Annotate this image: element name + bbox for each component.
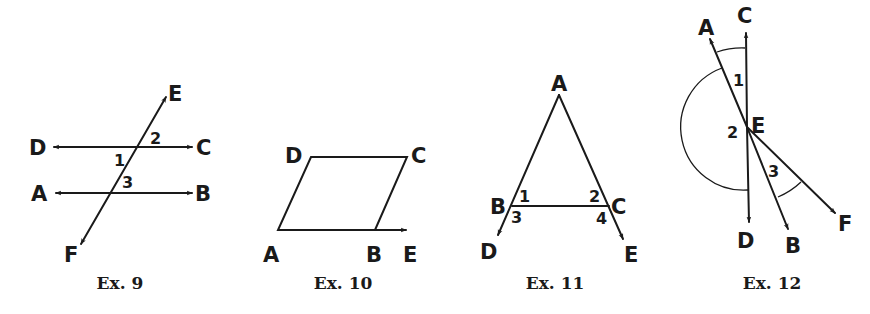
transversal-fe <box>81 97 166 244</box>
point-label-a: A <box>698 16 715 40</box>
figure-ex9: D C A B E F 1 2 3 Ex. 9 <box>29 82 211 293</box>
point-label-c: C <box>737 4 752 28</box>
angle-label-2: 2 <box>589 187 600 206</box>
point-label-b: B <box>490 195 506 219</box>
angle-arc-1 <box>717 48 745 52</box>
point-label-c: C <box>611 195 626 219</box>
angle-label-2: 2 <box>727 123 738 142</box>
point-label-d: D <box>480 240 497 264</box>
point-label-b: B <box>195 182 211 206</box>
figure-ex11: A B C D E 1 2 3 4 Ex. 11 <box>480 72 638 293</box>
point-label-d: D <box>285 144 302 168</box>
point-label-b: B <box>366 243 382 267</box>
caption-ex11: Ex. 11 <box>526 273 585 293</box>
figure-ex10: D C A B E Ex. 10 <box>263 144 426 293</box>
angle-label-2: 2 <box>150 129 161 148</box>
point-label-e: E <box>403 243 417 267</box>
point-label-f: F <box>838 212 852 236</box>
angle-label-3: 3 <box>511 208 522 227</box>
ray-ad <box>498 95 559 235</box>
point-label-d: D <box>29 136 46 160</box>
point-label-c: C <box>411 144 426 168</box>
point-label-e: E <box>751 114 765 138</box>
ray-ec <box>746 33 747 127</box>
figure-ex12: A C E D B F 1 2 3 Ex. 12 <box>681 4 853 293</box>
point-label-f: F <box>64 243 78 267</box>
caption-ex12: Ex. 12 <box>743 273 802 293</box>
point-label-b: B <box>785 234 801 258</box>
ray-ed <box>747 127 749 222</box>
angle-label-3: 3 <box>122 173 133 192</box>
angle-label-1: 1 <box>519 187 530 206</box>
point-label-e: E <box>624 243 638 267</box>
point-label-a: A <box>31 182 48 206</box>
angle-label-1: 1 <box>114 151 125 170</box>
caption-ex9: Ex. 9 <box>97 273 144 293</box>
angle-arc-3 <box>778 182 801 197</box>
angle-label-1: 1 <box>733 71 744 90</box>
angle-label-3: 3 <box>768 162 779 181</box>
point-label-a: A <box>263 243 280 267</box>
angle-label-4: 4 <box>596 209 607 228</box>
ray-ef <box>747 127 835 213</box>
point-label-e: E <box>168 82 182 106</box>
geometry-figures: D C A B E F 1 2 3 Ex. 9 D C A B E Ex. 10… <box>0 0 870 314</box>
point-label-d: D <box>737 229 754 253</box>
caption-ex10: Ex. 10 <box>314 273 373 293</box>
point-label-a: A <box>551 72 568 96</box>
point-label-c: C <box>196 136 211 160</box>
